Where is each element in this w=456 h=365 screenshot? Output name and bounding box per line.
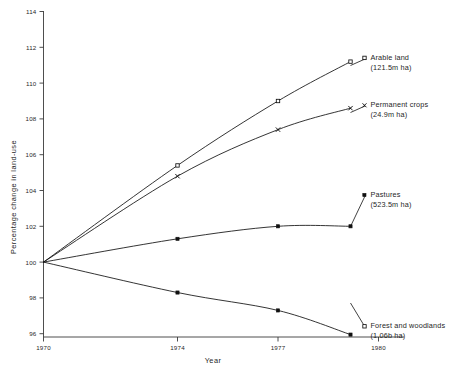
annotation-pastures-detail: (523.5m ha) [371,200,412,209]
data-point-forest-and-woodlands-1974 [176,291,179,294]
x-tick-label-1980: 1980 [371,344,386,351]
chart-container: 114 112 110 108 106 104 102 100 98 96 Pe… [0,0,456,365]
series-pastures [44,225,353,262]
annotation-arable-name: Arable land [371,53,410,62]
data-point-arable-land-1980 [349,60,352,63]
x-axis-title: Year [205,356,222,365]
data-point-arable-land-1977 [276,99,279,102]
y-axis-title: Percentage change in land-use [9,140,18,254]
x-tick-label-1977: 1977 [271,344,286,351]
annotation-forest-name: Forest and woodlands [371,321,446,330]
y-tick-label-104: 104 [26,187,37,194]
x-tick-label-1970: 1970 [36,344,51,351]
y-tick-label-110: 110 [26,80,37,87]
data-point-forest-and-woodlands-1977 [276,309,279,312]
annotation-marker-pastures [363,193,366,196]
annotation-permanent-name: Permanent crops [371,100,429,109]
series-line-pastures [44,225,351,262]
y-tick-label-112: 112 [26,44,37,51]
series-forest-and-woodlands [44,262,353,336]
data-point-permanent-crops-1977 [276,127,280,131]
annotation-marker-forest [363,325,366,328]
x-axis: 1970 1974 1977 1980 Year [36,337,404,365]
series-line-permanent-crops [44,108,351,262]
data-point-arable-land-1974 [176,164,179,167]
annotation-markers [363,56,367,328]
annotation-marker-permanent-crops [363,103,367,107]
y-tick-label-100: 100 [26,259,37,266]
y-axis: 114 112 110 108 106 104 102 100 98 96 Pe… [9,8,44,337]
data-point-pastures-1977 [276,225,279,228]
series-layer [44,60,353,336]
y-tick-label-114: 114 [26,8,37,15]
leader-line-forest [351,303,366,327]
y-tick-label-108: 108 [26,115,37,122]
annotation-permanent-detail: (24.9m ha) [371,110,408,119]
series-permanent-crops [44,106,353,262]
y-tick-label-98: 98 [29,294,37,301]
data-point-pastures-1974 [176,237,179,240]
y-tick-label-96: 96 [29,330,37,337]
x-tick-label-1974: 1974 [170,344,185,351]
leader-line-pastures [351,196,366,227]
y-tick-label-106: 106 [26,151,37,158]
series-line-forest-and-woodlands [44,262,351,334]
series-annotations: Arable land (121.5m ha) Permanent crops … [371,53,446,341]
data-point-forest-and-woodlands-1980 [349,333,352,336]
annotation-marker-arable [363,56,366,59]
y-tick-label-102: 102 [26,223,37,230]
annotation-arable-detail: (121.5m ha) [371,63,412,72]
annotation-pastures-name: Pastures [371,190,401,199]
annotation-forest-detail: (1.06b ha) [371,331,406,340]
land-use-line-chart: 114 112 110 108 106 104 102 100 98 96 Pe… [0,0,456,365]
data-point-permanent-crops-1974 [175,174,179,178]
annotation-leaders [351,59,366,327]
